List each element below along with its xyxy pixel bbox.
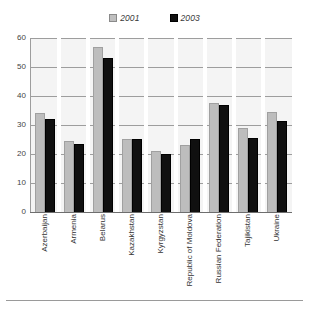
y-tick-60: 60 <box>17 34 26 42</box>
y-tick-50: 50 <box>17 63 26 71</box>
bar-group <box>176 38 205 212</box>
x-axis-label: Russian Federation <box>215 214 223 283</box>
x-axis-label: Ukraine <box>273 214 281 242</box>
bar-group <box>30 38 59 212</box>
chart-page: 2001 2003 60 50 40 30 20 10 0 <box>0 0 309 315</box>
x-axis-label-cell: Ukraine <box>263 214 292 294</box>
bar-2001[interactable] <box>151 151 161 212</box>
bar-2001[interactable] <box>64 141 74 212</box>
x-axis-category-labels: AzerbaijanArmeniaBelarusKazakhstanKyrgyz… <box>30 214 292 294</box>
x-axis-label-cell: Azerbaijan <box>30 214 59 294</box>
bar-2003[interactable] <box>277 121 287 212</box>
y-axis-tick-labels: 60 50 40 30 20 10 0 <box>0 38 30 213</box>
bar-group <box>205 38 234 212</box>
bar-groups <box>30 38 292 212</box>
bar-2003[interactable] <box>190 139 200 212</box>
y-tick-10: 10 <box>17 179 26 187</box>
bar-2003[interactable] <box>248 138 258 212</box>
y-tick-40: 40 <box>17 92 26 100</box>
bar-2003[interactable] <box>74 144 84 212</box>
x-axis-label: Belarus <box>99 214 107 241</box>
bar-2003[interactable] <box>219 105 229 212</box>
bar-2001[interactable] <box>267 112 277 212</box>
bar-2003[interactable] <box>103 58 113 212</box>
legend-label-2001: 2001 <box>120 14 139 23</box>
x-axis-label-cell: Armenia <box>59 214 88 294</box>
x-axis-label-cell: Kyrgyzstan <box>146 214 175 294</box>
x-axis-label: Tajikistan <box>244 214 252 247</box>
bar-2003[interactable] <box>132 139 142 212</box>
y-tick-30: 30 <box>17 121 26 129</box>
x-axis-label: Azerbaijan <box>41 214 49 252</box>
x-axis-label: Kyrgyzstan <box>157 214 165 254</box>
legend-label-2003: 2003 <box>181 14 200 23</box>
x-axis-label: Kazakhstan <box>128 214 136 256</box>
chart-legend: 2001 2003 <box>0 14 309 23</box>
bar-2003[interactable] <box>161 154 171 212</box>
bar-2001[interactable] <box>93 47 103 212</box>
bar-2001[interactable] <box>209 103 219 212</box>
x-axis-label-cell: Republic of Moldova <box>176 214 205 294</box>
bar-2001[interactable] <box>238 128 248 212</box>
x-axis-label: Republic of Moldova <box>186 214 194 286</box>
x-axis-label-cell: Tajikistan <box>234 214 263 294</box>
bar-group <box>59 38 88 212</box>
bar-2001[interactable] <box>35 113 45 212</box>
y-tick-20: 20 <box>17 150 26 158</box>
y-tick-0: 0 <box>22 208 26 216</box>
legend-entry-2003[interactable]: 2003 <box>170 14 200 23</box>
bar-2003[interactable] <box>45 119 55 212</box>
bar-group <box>234 38 263 212</box>
bar-group <box>263 38 292 212</box>
plot-area <box>30 38 292 213</box>
bottom-divider <box>6 300 303 301</box>
x-axis-label-cell: Russian Federation <box>205 214 234 294</box>
plot-inner <box>30 38 292 213</box>
bar-group <box>117 38 146 212</box>
x-axis-label: Armenia <box>70 214 78 244</box>
legend-swatch-2003-icon <box>170 14 178 22</box>
legend-entry-2001[interactable]: 2001 <box>109 14 139 23</box>
chart-area: 60 50 40 30 20 10 0 <box>0 38 309 213</box>
bar-2001[interactable] <box>122 139 132 212</box>
x-axis-label-cell: Kazakhstan <box>117 214 146 294</box>
x-axis-label-cell: Belarus <box>88 214 117 294</box>
bar-group <box>146 38 175 212</box>
legend-swatch-2001-icon <box>109 14 117 22</box>
bar-group <box>88 38 117 212</box>
bar-2001[interactable] <box>180 145 190 212</box>
